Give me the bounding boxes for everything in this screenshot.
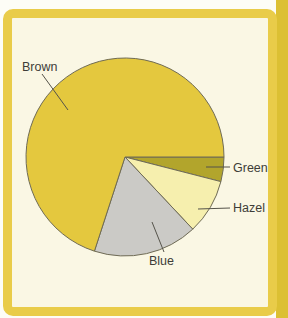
slice-label-green: Green <box>233 161 268 175</box>
pie-slices-group <box>26 58 224 256</box>
slice-label-brown: Brown <box>22 60 57 74</box>
slice-label-blue: Blue <box>149 254 174 268</box>
slice-label-hazel: Hazel <box>233 201 265 215</box>
eye-color-pie-chart <box>0 0 288 318</box>
figure-page: Brown Green Hazel Blue <box>0 0 288 318</box>
